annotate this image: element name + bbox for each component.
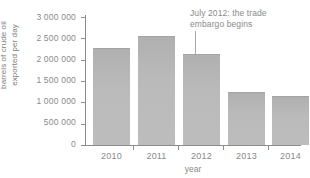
y-axis-title-line-2: exported per day <box>9 0 20 110</box>
x-axis-title: year <box>85 164 301 174</box>
bar-2014 <box>272 96 309 145</box>
x-tick-label-2012: 2012 <box>179 151 224 162</box>
x-tick-label-2010: 2010 <box>89 151 134 162</box>
annotation-line-2: embargo begins <box>190 19 308 30</box>
y-tick-mark-500000 <box>81 124 85 125</box>
annotation-line-1: July 2012: the trade <box>190 8 308 19</box>
x-tick-label-2014: 2014 <box>268 151 310 162</box>
y-tick-mark-3000000 <box>81 17 85 18</box>
y-tick-label-0: 0 <box>22 140 76 149</box>
bar-2013 <box>228 92 265 145</box>
bar-chart: barrels of crude oil exported per day 3 … <box>0 0 310 178</box>
x-tick-label-2013: 2013 <box>224 151 269 162</box>
y-tick-mark-1000000 <box>81 102 85 103</box>
y-tick-mark-1500000 <box>81 81 85 82</box>
y-tick-label-2000000: 2 000 000 <box>22 55 76 64</box>
annotation-label: July 2012: the trade embargo begins <box>190 8 308 29</box>
x-tick-mark-4 <box>268 146 269 150</box>
bar-2012 <box>183 54 220 145</box>
annotation-leader-line <box>195 31 196 55</box>
plot-area: 2010 2011 2012 2013 2014 year <box>85 17 301 145</box>
y-tick-label-1000000: 1 000 000 <box>22 97 76 106</box>
y-axis-tick-labels: 3 000 000 2 500 000 2 000 000 1 500 000 … <box>22 0 76 178</box>
x-tick-mark-3 <box>223 146 224 150</box>
y-tick-label-2500000: 2 500 000 <box>22 34 76 43</box>
y-axis-title: barrels of crude oil exported per day <box>0 0 22 110</box>
y-axis-title-line-1: barrels of crude oil <box>0 0 9 110</box>
y-tick-label-1500000: 1 500 000 <box>22 76 76 85</box>
x-tick-mark-2 <box>178 146 179 150</box>
x-tick-mark-1 <box>133 146 134 150</box>
bar-2011 <box>138 36 175 145</box>
y-tick-mark-0 <box>81 145 85 146</box>
y-axis-line <box>85 15 86 146</box>
bar-2010 <box>93 48 130 145</box>
y-tick-mark-2000000 <box>81 60 85 61</box>
y-tick-mark-2500000 <box>81 38 85 39</box>
y-tick-label-500000: 500 000 <box>22 118 76 127</box>
x-tick-label-2011: 2011 <box>134 151 179 162</box>
y-tick-label-3000000: 3 000 000 <box>22 13 76 22</box>
